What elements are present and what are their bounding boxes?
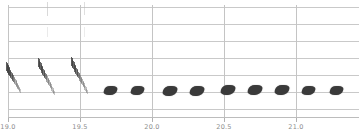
gridline-vertical xyxy=(296,5,297,118)
spectrogram-plot-area xyxy=(0,0,359,118)
axis-line xyxy=(8,117,359,118)
pulse-mark xyxy=(274,85,291,95)
x-tick-label: 19.0 xyxy=(0,122,15,132)
gridline-horizontal xyxy=(8,58,359,59)
chirp-mark xyxy=(71,57,89,99)
chirp-mark xyxy=(38,58,56,100)
gridline-horizontal xyxy=(8,109,359,110)
high-frequency-tick xyxy=(47,27,48,37)
high-frequency-tick xyxy=(47,2,48,16)
x-tick-label: 20.5 xyxy=(216,122,231,132)
pulse-mark xyxy=(162,86,179,96)
spectrogram-figure: 19.019.520.020.521.0 xyxy=(0,0,359,140)
x-axis: 19.019.520.020.521.0 xyxy=(0,118,359,140)
pulse-mark xyxy=(130,86,146,95)
high-frequency-tick xyxy=(84,27,85,37)
pulse-mark xyxy=(220,85,237,95)
gridline-vertical xyxy=(224,5,225,118)
gridline-vertical xyxy=(152,5,153,118)
x-tick-label: 19.5 xyxy=(72,122,87,132)
pulse-mark xyxy=(301,86,317,95)
gridline-horizontal xyxy=(8,24,359,25)
pulse-mark xyxy=(329,86,345,95)
pulse-mark xyxy=(247,85,264,95)
pulse-mark xyxy=(103,86,119,95)
pulse-mark xyxy=(189,86,206,96)
x-tick-label: 21.0 xyxy=(288,122,303,132)
gridline-horizontal xyxy=(8,75,359,76)
gridline-horizontal xyxy=(8,7,359,8)
x-tick-label: 20.0 xyxy=(144,122,159,132)
high-frequency-tick xyxy=(84,2,85,15)
gridline-horizontal xyxy=(8,41,359,42)
chirp-mark xyxy=(6,62,22,98)
